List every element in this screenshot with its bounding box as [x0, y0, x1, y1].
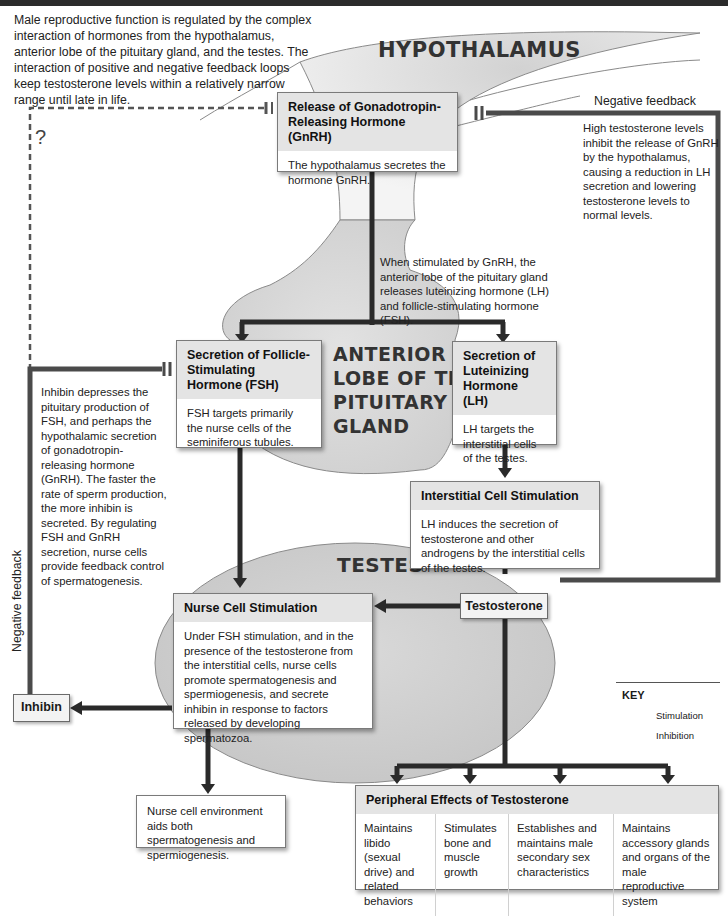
lh-box-title: Secretion of Luteinizing Hormone (LH) [453, 342, 556, 415]
intro-text: Male reproductive function is regulated … [14, 12, 314, 108]
nurse-environment-box: Nurse cell environment aids both spermat… [136, 795, 286, 848]
nurse-cell-box-body: Under FSH stimulation, and in the presen… [174, 622, 372, 753]
legend-key: KEY Stimulation Inhibition [616, 682, 720, 753]
peripheral-effect-secondary-sex: Establishes and maintains male secondary… [509, 814, 614, 916]
pituitary-release-note: When stimulated by GnRH, the anterior lo… [380, 255, 562, 328]
nurse-cell-box-title: Nurse Cell Stimulation [174, 594, 372, 622]
peripheral-effects-grid: Maintains libido (sexual drive) and rela… [356, 814, 718, 916]
gnrh-box-title: Release of Gonadotropin-Releasing Hormon… [278, 93, 457, 151]
fsh-box-title: Secretion of Follicle-Stimulating Hormon… [177, 341, 321, 399]
legend-stimulation-label: Stimulation [656, 710, 703, 721]
lh-box-body: LH targets the interstitial cells of the… [453, 415, 556, 474]
inhibin-note: Inhibin depresses the pituitary producti… [41, 385, 169, 588]
peripheral-effect-accessory-glands: Maintains accessory glands and organs of… [614, 814, 718, 916]
negative-feedback-label-left: Negative feedback [10, 550, 24, 652]
interstitial-box: Interstitial Cell Stimulation LH induces… [410, 481, 600, 569]
gnrh-box: Release of Gonadotropin-Releasing Hormon… [277, 92, 458, 172]
hypothalamus-label: HYPOTHALAMUS [378, 38, 581, 62]
peripheral-effect-bone-muscle: Stimulates bone and muscle growth [436, 814, 509, 916]
legend-title: KEY [622, 689, 645, 701]
nurse-to-inhibin-arrow [70, 701, 172, 715]
unknown-pathway-mark: ? [35, 126, 46, 149]
negative-feedback-label-right: Negative feedback [594, 94, 696, 108]
peripheral-effect-libido: Maintains libido (sexual drive) and rela… [356, 814, 436, 916]
interstitial-box-title: Interstitial Cell Stimulation [411, 482, 599, 510]
gnrh-box-body: The hypothalamus secretes the hormone Gn… [278, 151, 457, 195]
fsh-box-body: FSH targets primarily the nurse cells of… [177, 399, 321, 458]
testosterone-box: Testosterone [460, 593, 548, 619]
lh-box: Secretion of Luteinizing Hormone (LH) LH… [452, 341, 557, 445]
fsh-box: Secretion of Follicle-Stimulating Hormon… [176, 340, 322, 448]
inhibin-box: Inhibin [13, 694, 70, 722]
nurse-cell-box: Nurse Cell Stimulation Under FSH stimula… [173, 593, 373, 729]
nurse-environment-body: Nurse cell environment aids both spermat… [137, 796, 285, 870]
peripheral-effects-box: Peripheral Effects of Testosterone Maint… [355, 785, 719, 890]
interstitial-box-body: LH induces the secretion of testosterone… [411, 510, 599, 583]
peripheral-effects-title: Peripheral Effects of Testosterone [356, 786, 718, 814]
legend-inhibition-label: Inhibition [656, 730, 694, 741]
high-testosterone-note: High testosterone levels inhibit the rel… [583, 121, 723, 223]
